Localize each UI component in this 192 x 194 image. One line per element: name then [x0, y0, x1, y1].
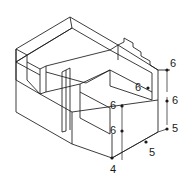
dimension-label-bottom-right-run: 5 — [149, 147, 155, 158]
dimension-label-top-right-height: 6 — [170, 58, 176, 69]
edge-center-block-drop-face — [80, 118, 110, 134]
dimension-label-right-middle-height: 6 — [172, 95, 178, 106]
dot-top-right-height — [165, 68, 168, 71]
dimension-label-right-depth: 5 — [172, 123, 178, 134]
edge-inner-rim-diag — [72, 28, 110, 50]
edge-bottom-left-diag — [72, 144, 112, 158]
dot-bottom-right-run — [144, 140, 147, 143]
dimension-label-inner-block-height: 6 — [110, 100, 116, 111]
edge-inner-post-top — [40, 66, 46, 69]
dimension-label-inner-sloped-face: 6 — [135, 82, 141, 93]
edge-wall-inner-ledge — [27, 62, 40, 69]
edge-chamfer-fan-2 — [16, 28, 72, 62]
dimension-label-bottom-front-corner: 4 — [110, 164, 116, 175]
edge-chamfer-ramp-b — [70, 17, 72, 28]
dimension-label-lower-front-height: 6 — [110, 125, 116, 136]
isometric-solid-figure — [0, 0, 192, 194]
dot-inner-sloped-face — [146, 86, 149, 89]
edge-interior-cross-b — [27, 80, 40, 94]
edge-front-face-top — [40, 94, 72, 112]
dot-lower-front-height — [120, 129, 123, 132]
edge-top-back-left — [16, 17, 70, 49]
edge-inner-post-base — [40, 92, 46, 94]
edge-chamfer-ramp-c — [110, 45, 118, 50]
edge-interior-cross-a — [46, 84, 80, 92]
edge-interior-cross-c — [86, 70, 110, 83]
edge-slot-bottom — [62, 131, 66, 132]
edge-chamfer-ramp-a — [16, 49, 27, 55]
dot-inner-block-height — [120, 104, 123, 107]
edge-center-block-front — [110, 86, 152, 100]
edge-rear-wall-top — [16, 80, 40, 94]
edge-chamfer-fan-3 — [16, 62, 40, 75]
edge-center-block-face-left — [80, 92, 110, 108]
edge-left-bottom-diag — [16, 112, 72, 144]
edge-center-block-top-right — [110, 70, 152, 92]
isometric-drawing-canvas: 6 6 6 6 6 5 5 4 — [0, 0, 192, 194]
edge-ledge-top — [46, 50, 110, 66]
dot-bottom-front-corner — [110, 156, 113, 159]
edge-slot-right-b — [66, 68, 70, 70]
dot-right-middle-height — [165, 99, 168, 102]
dot-right-depth — [165, 127, 168, 130]
edge-slot-top — [62, 70, 66, 72]
